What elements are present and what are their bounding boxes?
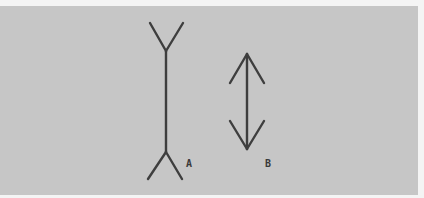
muller-lyer-figure: A B — [0, 0, 424, 198]
label-b: B — [265, 158, 271, 169]
figure-b-bottom-arrow-left — [230, 121, 247, 149]
figure-a-bottom-fin-left — [148, 152, 166, 179]
figure-b-bottom-arrow-right — [247, 121, 264, 149]
figure-b-top-arrow-right — [247, 54, 264, 83]
figure-a-top-fin-left — [150, 23, 166, 51]
figure-a-top-fin-right — [166, 23, 183, 51]
page: A B — [0, 0, 424, 198]
figure-a-bottom-fin-right — [166, 152, 182, 179]
figure-b-top-arrow-left — [230, 54, 247, 83]
figure-b — [230, 54, 264, 149]
label-a: A — [186, 158, 192, 169]
figure-a — [148, 23, 183, 179]
